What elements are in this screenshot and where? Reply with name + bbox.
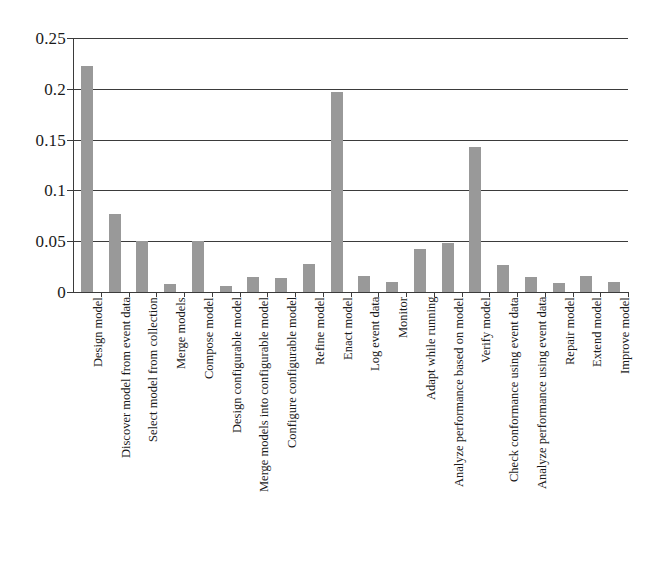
y-tickmark-0.25 xyxy=(67,38,73,39)
gridline-0.1 xyxy=(73,190,628,191)
bar-chart: 00.050.10.150.20.25 Design modelDiscover… xyxy=(0,0,657,576)
bar xyxy=(275,278,287,292)
x-axis-tick-labels: Design modelDiscover model from event da… xyxy=(73,297,628,576)
x-tick-label: Compose model xyxy=(203,297,216,379)
gridline-0.2 xyxy=(73,89,628,90)
bar xyxy=(247,277,259,292)
x-tick-label: Enact model xyxy=(342,297,355,360)
bar xyxy=(192,241,204,292)
y-tick-label-0.1: 0.1 xyxy=(44,182,66,199)
x-tick-label: Merge models into configurable model xyxy=(258,297,271,492)
x-tick-label: Analyze performance based on model xyxy=(453,297,466,487)
y-tick-label-0.2: 0.2 xyxy=(44,80,66,97)
x-tick-label: Analyze performance using event data xyxy=(536,297,549,489)
bar xyxy=(331,92,343,292)
y-tickmark-0.2 xyxy=(67,89,73,90)
bar xyxy=(497,265,509,292)
x-tick-label: Improve model xyxy=(619,297,632,374)
y-tick-label-0.25: 0.25 xyxy=(35,30,66,47)
bar xyxy=(442,243,454,292)
y-axis-tick-labels: 00.050.10.150.20.25 xyxy=(0,0,66,576)
x-tick-label: Configure configurable model xyxy=(286,297,299,448)
x-tick-label: Select model from collection xyxy=(147,297,160,442)
bar xyxy=(469,147,481,292)
bar xyxy=(136,241,148,292)
bar xyxy=(109,214,121,292)
y-tick-label-0: 0 xyxy=(57,284,66,301)
gridline-0.15 xyxy=(73,140,628,141)
x-tick-label: Discover model from event data xyxy=(120,297,133,458)
gridline-0.25 xyxy=(73,38,628,39)
y-tick-label-0.15: 0.15 xyxy=(35,131,66,148)
bar xyxy=(414,249,426,292)
x-tick-label: Log event data xyxy=(369,297,382,371)
bar xyxy=(164,284,176,292)
y-tickmark-0.1 xyxy=(67,190,73,191)
bar xyxy=(386,282,398,292)
y-tickmark-0.05 xyxy=(67,241,73,242)
plot-area xyxy=(73,38,628,292)
bar xyxy=(608,282,620,292)
x-tick-label: Check conformance using event data xyxy=(508,297,521,482)
x-tick-label: Monitor xyxy=(397,297,410,338)
x-tick-label: Merge models xyxy=(175,297,188,369)
x-tick-label: Refine model xyxy=(314,297,327,365)
bar xyxy=(303,264,315,292)
x-tick-label: Verify model xyxy=(480,297,493,363)
bar xyxy=(580,276,592,292)
x-tick-label: Extend model xyxy=(591,297,604,367)
bar xyxy=(220,286,232,292)
y-tick-label-0.05: 0.05 xyxy=(35,233,66,250)
bar xyxy=(81,66,93,292)
bar xyxy=(358,276,370,292)
x-tick-label: Repair model xyxy=(564,297,577,365)
bar xyxy=(553,283,565,292)
x-tick-label: Adapt while running xyxy=(425,297,438,400)
gridline-0.05 xyxy=(73,241,628,242)
bar xyxy=(525,277,537,292)
x-tick-label: Design model xyxy=(92,297,105,367)
y-tickmark-0.15 xyxy=(67,140,73,141)
x-tick-label: Design configurable model xyxy=(231,297,244,433)
y-tickmark-0 xyxy=(67,292,73,293)
